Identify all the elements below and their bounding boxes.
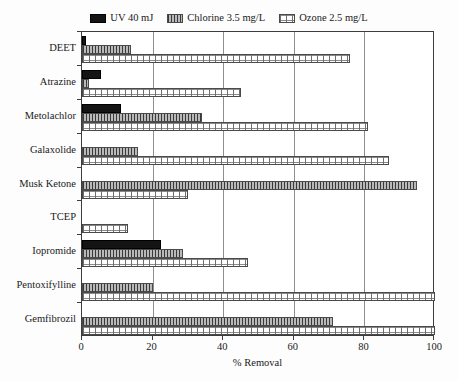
x-axis-label-80: 80 bbox=[358, 341, 369, 352]
legend-label-chlorine: Chlorine 3.5 mg/L bbox=[187, 13, 265, 24]
x-axis-label-0: 0 bbox=[78, 341, 83, 352]
legend-item-chlorine: Chlorine 3.5 mg/L bbox=[167, 13, 265, 24]
y-axis-label: Musk Ketone bbox=[0, 178, 76, 189]
y-axis-label: Galaxolide bbox=[0, 144, 76, 155]
x-axis-tick-100 bbox=[433, 336, 434, 340]
x-axis-tick-60 bbox=[293, 336, 294, 340]
y-axis-label: Atrazine bbox=[0, 76, 76, 87]
y-axis-labels: DEETAtrazineMetolachlorGalaxolideMusk Ke… bbox=[0, 31, 458, 336]
y-axis-tick bbox=[77, 268, 81, 269]
x-axis-title: % Removal bbox=[81, 357, 434, 368]
x-axis-tick-20 bbox=[152, 336, 153, 340]
legend-label-ozone: Ozone 2.5 mg/L bbox=[299, 13, 368, 24]
y-axis-tick bbox=[77, 65, 81, 66]
legend-item-ozone: Ozone 2.5 mg/L bbox=[279, 13, 368, 24]
y-axis-tick bbox=[77, 31, 81, 32]
legend-swatch-uv-icon bbox=[90, 14, 106, 23]
chart-figure: UV 40 mJ Chlorine 3.5 mg/L Ozone 2.5 mg/… bbox=[0, 0, 458, 381]
x-axis-label-20: 20 bbox=[146, 341, 157, 352]
y-axis-label: Gemfibrozil bbox=[0, 313, 76, 324]
x-axis-tick-0 bbox=[81, 336, 82, 340]
y-axis-tick bbox=[77, 99, 81, 100]
y-axis-label: DEET bbox=[0, 42, 76, 53]
y-axis-label: Pentoxifylline bbox=[0, 279, 76, 290]
x-axis-tick-80 bbox=[363, 336, 364, 340]
y-axis-tick bbox=[77, 234, 81, 235]
x-axis-tick-40 bbox=[222, 336, 223, 340]
legend-swatch-chlorine-icon bbox=[167, 14, 183, 23]
y-axis-label: TCEP bbox=[0, 211, 76, 222]
y-axis-tick bbox=[77, 200, 81, 201]
chart-legend: UV 40 mJ Chlorine 3.5 mg/L Ozone 2.5 mg/… bbox=[0, 13, 458, 24]
x-axis-label-100: 100 bbox=[426, 341, 442, 352]
x-axis: 020406080100 bbox=[81, 336, 434, 356]
y-axis-tick bbox=[77, 302, 81, 303]
x-axis-label-40: 40 bbox=[217, 341, 228, 352]
legend-label-uv: UV 40 mJ bbox=[110, 13, 153, 24]
y-axis-label: Iopromide bbox=[0, 245, 76, 256]
legend-item-uv: UV 40 mJ bbox=[90, 13, 153, 24]
legend-swatch-ozone-icon bbox=[279, 14, 295, 23]
y-axis-label: Metolachlor bbox=[0, 110, 76, 121]
y-axis-tick bbox=[77, 167, 81, 168]
x-axis-label-60: 60 bbox=[288, 341, 299, 352]
y-axis-tick bbox=[77, 133, 81, 134]
